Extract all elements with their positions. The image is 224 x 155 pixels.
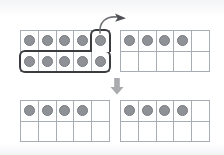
tenframe-cell bbox=[157, 31, 175, 52]
tenframe-cell bbox=[74, 101, 92, 122]
counter-dot bbox=[24, 105, 35, 116]
bottom-left-ten-frame bbox=[20, 100, 110, 142]
tenframe-cell bbox=[74, 31, 92, 52]
tenframe-cell bbox=[121, 101, 139, 122]
tenframe-cell bbox=[192, 31, 210, 52]
counter-dot bbox=[24, 56, 35, 67]
counter-dot bbox=[159, 35, 170, 46]
down-step-arrow bbox=[109, 78, 125, 95]
tenframe-cell bbox=[39, 122, 57, 143]
counter-dot bbox=[77, 35, 88, 46]
tenframe-cell bbox=[92, 52, 110, 73]
tenframe-cell bbox=[157, 52, 175, 73]
tenframe-cell bbox=[157, 122, 175, 143]
ten-frame-diagram bbox=[0, 0, 224, 155]
counter-dot bbox=[42, 105, 53, 116]
top-right-ten-frame bbox=[120, 30, 210, 72]
counter-dot bbox=[177, 35, 188, 46]
tenframe-cell bbox=[121, 122, 139, 143]
counter-dot bbox=[159, 105, 170, 116]
tenframe-cell bbox=[92, 31, 110, 52]
tenframe-cell bbox=[74, 122, 92, 143]
tenframe-cell bbox=[57, 52, 75, 73]
tenframe-cell bbox=[92, 122, 110, 143]
counter-dot bbox=[95, 35, 106, 46]
tenframe-cell bbox=[174, 101, 192, 122]
tenframe-cell bbox=[21, 31, 39, 52]
counter-dot bbox=[124, 105, 135, 116]
bottom-right-ten-frame bbox=[120, 100, 210, 142]
tenframe-cell bbox=[21, 52, 39, 73]
tenframe-cell bbox=[39, 52, 57, 73]
tenframe-cell bbox=[121, 52, 139, 73]
tenframe-cell bbox=[21, 101, 39, 122]
counter-dot bbox=[77, 56, 88, 67]
tenframe-cell bbox=[192, 122, 210, 143]
counter-dot bbox=[95, 56, 106, 67]
counter-dot bbox=[59, 56, 70, 67]
tenframe-cell bbox=[39, 31, 57, 52]
counter-dot bbox=[42, 56, 53, 67]
tenframe-cell bbox=[174, 52, 192, 73]
tenframe-cell bbox=[192, 101, 210, 122]
top-left-ten-frame bbox=[20, 30, 110, 72]
tenframe-cell bbox=[192, 52, 210, 73]
counter-dot bbox=[42, 35, 53, 46]
counter-dot bbox=[177, 105, 188, 116]
tenframe-cell bbox=[139, 101, 157, 122]
counter-dot bbox=[59, 105, 70, 116]
counter-dot bbox=[142, 105, 153, 116]
counter-dot bbox=[142, 35, 153, 46]
tenframe-cell bbox=[57, 101, 75, 122]
tenframe-cell bbox=[57, 122, 75, 143]
tenframe-cell bbox=[139, 122, 157, 143]
counter-dot bbox=[24, 35, 35, 46]
counter-dot bbox=[124, 35, 135, 46]
tenframe-cell bbox=[92, 101, 110, 122]
tenframe-cell bbox=[139, 31, 157, 52]
counter-dot bbox=[59, 35, 70, 46]
tenframe-cell bbox=[157, 101, 175, 122]
counter-dot bbox=[77, 105, 88, 116]
tenframe-cell bbox=[39, 101, 57, 122]
tenframe-cell bbox=[57, 31, 75, 52]
tenframe-cell bbox=[74, 52, 92, 73]
tenframe-cell bbox=[121, 31, 139, 52]
tenframe-cell bbox=[21, 122, 39, 143]
tenframe-cell bbox=[174, 122, 192, 143]
tenframe-cell bbox=[174, 31, 192, 52]
tenframe-cell bbox=[139, 52, 157, 73]
